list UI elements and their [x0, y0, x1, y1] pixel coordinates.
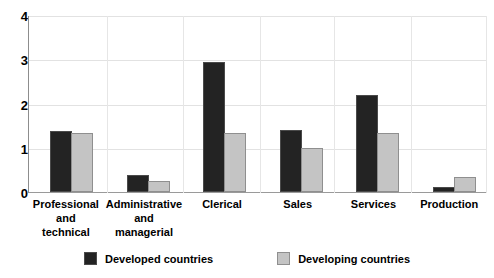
category-label-line: Sales	[262, 198, 334, 212]
category-label-administrative: Administrative and managerial	[104, 198, 184, 246]
bar-developed	[50, 131, 72, 192]
category-label-line: Administrative	[106, 198, 182, 212]
legend-item-developing: Developing countries	[277, 252, 410, 265]
bar-groups	[28, 16, 487, 193]
category-label-professional: Professional and technical	[28, 198, 104, 246]
category-label-line: and	[106, 212, 182, 226]
bar-group-production	[411, 16, 488, 193]
y-tick-label: 1	[8, 142, 28, 155]
bar-developed	[203, 62, 225, 192]
bar-group-sales	[258, 16, 335, 193]
bar-developing	[148, 181, 170, 192]
category-label-line: Professional	[30, 198, 102, 212]
legend-swatch-icon	[84, 252, 97, 265]
category-label-production: Production	[411, 198, 487, 246]
x-axis-category-labels: Professional and technical Administrativ…	[28, 198, 487, 246]
bar-chart: 4 3 2 1 0	[0, 0, 494, 278]
bar-developed	[280, 130, 302, 192]
bar-developing	[224, 133, 246, 192]
legend-item-developed: Developed countries	[84, 252, 213, 265]
bar-developed	[127, 175, 149, 192]
category-label-line: Production	[413, 198, 485, 212]
bar-developing	[71, 133, 93, 192]
category-label-line: and	[30, 212, 102, 226]
category-label-clerical: Clerical	[184, 198, 260, 246]
chart-legend: Developed countries Developing countries	[0, 252, 494, 265]
category-label-line: Clerical	[186, 198, 258, 212]
bar-developing	[301, 148, 323, 192]
bar-developing	[377, 133, 399, 192]
bar-developing	[454, 177, 476, 192]
y-tick-label: 0	[8, 187, 28, 200]
bar-group-clerical	[181, 16, 258, 193]
legend-swatch-icon	[277, 252, 290, 265]
category-label-sales: Sales	[260, 198, 336, 246]
y-tick-label: 4	[8, 10, 28, 23]
plot-area	[28, 16, 487, 193]
bar-group-services	[334, 16, 411, 193]
category-label-line: managerial	[106, 226, 182, 240]
legend-label: Developing countries	[298, 253, 410, 265]
bar-group-professional	[28, 16, 105, 193]
bar-developed	[433, 187, 455, 192]
legend-label: Developed countries	[105, 253, 213, 265]
bar-group-administrative	[105, 16, 182, 193]
y-tick-label: 3	[8, 54, 28, 67]
category-label-services: Services	[336, 198, 412, 246]
category-label-line: technical	[30, 226, 102, 240]
y-tick-label: 2	[8, 98, 28, 111]
category-label-line: Services	[338, 198, 410, 212]
bar-developed	[356, 95, 378, 192]
